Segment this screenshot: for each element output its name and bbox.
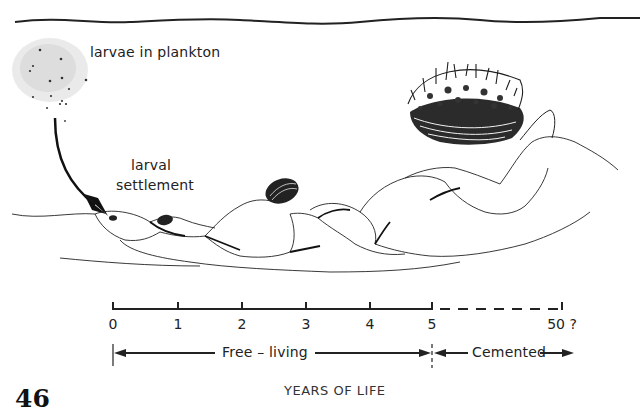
axis-title: YEARS OF LIFE: [284, 383, 386, 398]
plankton-label: larvae in plankton: [90, 44, 220, 60]
tick-label-50: 50 ?: [547, 316, 577, 332]
water-surface-line: [15, 18, 640, 24]
tick-label-2: 2: [238, 316, 247, 332]
rock-crevice-shading: [150, 188, 460, 252]
phase-label-cemented: Cemented: [472, 344, 546, 360]
page-number: 46: [15, 384, 50, 413]
mature-oyster-cluster-icon: [408, 62, 555, 145]
tick-label-0: 0: [109, 316, 118, 332]
plankton-cloud-icon: [12, 38, 88, 122]
rock-substrate: [12, 137, 618, 272]
settlement-arrow-icon: [55, 118, 108, 216]
phase-label-free-living: Free – living: [222, 344, 308, 360]
tick-label-3: 3: [302, 316, 311, 332]
tick-label-1: 1: [174, 316, 183, 332]
settlement-label-line1: larval: [131, 157, 171, 173]
settlement-label-line2: settlement: [116, 177, 194, 193]
timeline-axis: [113, 302, 562, 310]
tick-label-4: 4: [366, 316, 375, 332]
tick-label-5: 5: [428, 316, 437, 332]
